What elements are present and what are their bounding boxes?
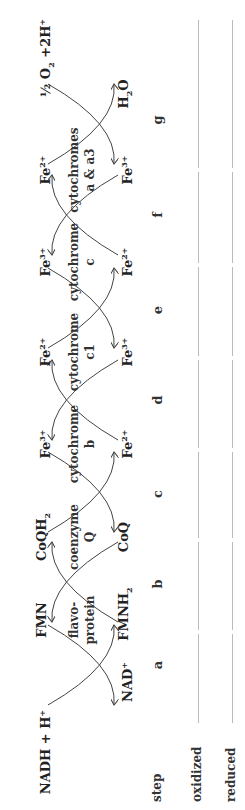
step-letter: e <box>150 306 165 314</box>
answer-row-label: oxidized <box>190 746 204 802</box>
top-species-label: Fe2+ <box>35 337 53 366</box>
answer-blank[interactable] <box>198 542 199 630</box>
answer-blank[interactable] <box>198 172 199 263</box>
answer-blank[interactable] <box>198 634 199 723</box>
bottom-species-label: H2O <box>117 79 136 108</box>
top-species-label: Fe3+ <box>35 247 53 276</box>
top-species-label: Fe2+ <box>35 155 53 184</box>
bottom-species-label: Fe3+ <box>117 155 135 184</box>
carrier-label: coenzymeQ <box>66 504 98 570</box>
top-species-label: ½ O2 +2H+ <box>35 19 58 97</box>
answer-blank[interactable] <box>232 452 233 538</box>
step-row-label: step <box>150 774 164 802</box>
top-species-label: NADH + H+ <box>35 710 53 794</box>
step-letter: d <box>150 395 165 404</box>
step-letter: b <box>150 579 165 588</box>
step-letter: g <box>150 115 165 124</box>
bottom-species-label: Fe2+ <box>117 247 135 276</box>
answer-blank[interactable] <box>198 267 199 356</box>
top-species-label: CoQH2 <box>35 513 54 561</box>
carrier-label: flavo-protein <box>66 595 98 644</box>
answer-blank[interactable] <box>198 20 199 168</box>
carrier-label: cytochromeb <box>66 405 98 484</box>
carrier-label: cytochromec1 <box>66 313 98 392</box>
step-letter: f <box>150 212 165 218</box>
step-letter: c <box>150 490 165 498</box>
carrier-label: cytochromesa & a3 <box>66 127 98 212</box>
carrier-label: cytochromec <box>66 223 98 302</box>
electron-transport-chain-diagram: NADH + H+FMNCoQH2Fe3+Fe2+Fe3+Fe2+½ O2 +2… <box>0 0 245 810</box>
answer-blank[interactable] <box>232 542 233 630</box>
top-species-label: Fe3+ <box>35 429 53 458</box>
answer-blank[interactable] <box>232 360 233 448</box>
answer-blank[interactable] <box>232 172 233 263</box>
bottom-species-label: CoQ <box>117 522 131 552</box>
bottom-species-label: Fe2+ <box>117 429 135 458</box>
answer-row-label: reduced <box>224 748 238 802</box>
answer-blank[interactable] <box>232 267 233 356</box>
top-species-label: FMN <box>35 602 49 638</box>
answer-blank[interactable] <box>232 20 233 168</box>
bottom-species-label: NAD+ <box>117 662 135 702</box>
bottom-species-label: FMNH2 <box>117 587 136 640</box>
step-letter: a <box>150 661 165 669</box>
answer-blank[interactable] <box>198 360 199 448</box>
bottom-species-label: Fe3+ <box>117 337 135 366</box>
answer-blank[interactable] <box>232 634 233 723</box>
answer-blank[interactable] <box>198 452 199 538</box>
